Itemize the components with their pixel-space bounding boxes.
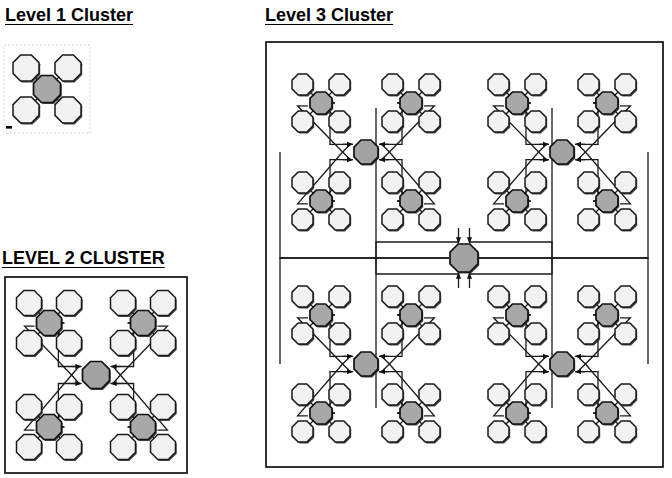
l3-tl-center-hub [354, 140, 378, 164]
l1-leaf-3 [13, 97, 39, 123]
l3-bl-bl-leaf-2 [329, 384, 350, 405]
l3-tl-br-leaf-1 [382, 172, 403, 193]
l3-br-bl-leaf-4 [525, 421, 546, 442]
l2-br-leaf-1 [111, 395, 136, 420]
l2-center-hub [83, 362, 110, 389]
l3-br-tr-leaf-2 [615, 286, 636, 307]
l3-bl-br-leaf-2 [419, 384, 440, 405]
l1-leaf-1 [13, 55, 39, 81]
l3-tr-bl-leaf-2 [525, 172, 546, 193]
l3-tr-tl-leaf-3 [488, 111, 509, 132]
l3-tl-tl-hub [310, 92, 332, 114]
l3-tl-bl-leaf-1 [292, 172, 313, 193]
l3-center-hub [450, 244, 478, 272]
l2-tl-hub [37, 311, 62, 336]
diagram-canvas: Level 1 Cluster LEVEL 2 CLUSTER Level 3 … [0, 0, 672, 478]
l2-tl-leaf-2 [57, 291, 82, 316]
l3-tr-br-leaf-4 [615, 209, 636, 230]
l3-tl-bl-leaf-4 [329, 209, 350, 230]
l3-bl-tr-leaf-2 [419, 286, 440, 307]
l3-br-tl-leaf-3 [488, 323, 509, 344]
l3-bl-tr-leaf-4 [419, 323, 440, 344]
l3-tr-br-leaf-3 [578, 209, 599, 230]
l2-bl-leaf-2 [57, 395, 82, 420]
level1-tick-mark [6, 126, 12, 129]
l3-bl-center-hub [354, 352, 378, 376]
l3-tl-tl-leaf-3 [292, 111, 313, 132]
l3-tr-br-leaf-1 [578, 172, 599, 193]
l2-bl-hub [37, 415, 62, 440]
l3-bl-bl-hub [310, 402, 332, 424]
level1-cluster-group [4, 45, 90, 133]
cluster-diagram [0, 0, 672, 478]
l2-tl-leaf-1 [17, 291, 42, 316]
l3-bl-tl-hub [310, 304, 332, 326]
l3-tl-tr-leaf-2 [419, 74, 440, 95]
l3-br-tl-leaf-2 [525, 286, 546, 307]
l3-tl-tr-hub [400, 92, 422, 114]
l3-tr-tl-leaf-4 [525, 111, 546, 132]
l2-bl-leaf-4 [57, 435, 82, 460]
l3-tr-tl-hub [506, 92, 528, 114]
l2-tl-leaf-4 [57, 331, 82, 356]
l2-br-hub [131, 415, 156, 440]
l2-tr-leaf-4 [151, 331, 176, 356]
l2-tr-leaf-3 [111, 331, 136, 356]
l3-tl-tr-leaf-4 [419, 111, 440, 132]
l2-tl-leaf-3 [17, 331, 42, 356]
l3-tr-br-leaf-2 [615, 172, 636, 193]
l3-tl-br-hub [400, 190, 422, 212]
l3-bl-bl-leaf-1 [292, 384, 313, 405]
l3-bl-tr-leaf-3 [382, 323, 403, 344]
l3-tr-tr-hub [596, 92, 618, 114]
l3-br-tr-leaf-3 [578, 323, 599, 344]
l3-tl-tl-leaf-4 [329, 111, 350, 132]
l3-tl-bl-hub [310, 190, 332, 212]
l3-bl-tl-leaf-4 [329, 323, 350, 344]
l1-hub [34, 76, 61, 103]
l3-tr-bl-hub [506, 190, 528, 212]
l3-bl-tr-leaf-1 [382, 286, 403, 307]
l3-tr-tr-leaf-2 [615, 74, 636, 95]
l3-br-br-leaf-2 [615, 384, 636, 405]
l3-tr-tr-leaf-1 [578, 74, 599, 95]
l3-br-bl-hub [506, 402, 528, 424]
l3-tl-br-leaf-3 [382, 209, 403, 230]
l3-tr-bl-leaf-4 [525, 209, 546, 230]
l3-tl-tr-leaf-1 [382, 74, 403, 95]
l3-br-br-leaf-3 [578, 421, 599, 442]
l2-br-leaf-3 [111, 435, 136, 460]
l3-tl-bl-leaf-2 [329, 172, 350, 193]
l3-tl-br-leaf-4 [419, 209, 440, 230]
level2-cluster-group [5, 277, 187, 473]
l3-br-tl-hub [506, 304, 528, 326]
l3-tr-tr-leaf-3 [578, 111, 599, 132]
l3-tr-tl-leaf-1 [488, 74, 509, 95]
l3-tl-br-leaf-2 [419, 172, 440, 193]
l3-bl-bl-leaf-3 [292, 421, 313, 442]
l3-tr-center-hub [550, 140, 574, 164]
l3-br-br-leaf-1 [578, 384, 599, 405]
l3-br-br-leaf-4 [615, 421, 636, 442]
l3-tr-tr-leaf-4 [615, 111, 636, 132]
l3-bl-tl-leaf-3 [292, 323, 313, 344]
l3-br-tr-hub [596, 304, 618, 326]
l2-tr-hub [131, 311, 156, 336]
l3-bl-bl-leaf-4 [329, 421, 350, 442]
l3-br-tr-leaf-1 [578, 286, 599, 307]
l3-br-center-hub [550, 352, 574, 376]
l3-tr-bl-leaf-3 [488, 209, 509, 230]
l1-leaf-2 [55, 55, 81, 81]
l3-tl-bl-leaf-3 [292, 209, 313, 230]
level3-cluster-group [266, 42, 663, 467]
l3-tl-tr-leaf-3 [382, 111, 403, 132]
l2-br-leaf-4 [151, 435, 176, 460]
l2-bl-leaf-1 [17, 395, 42, 420]
l3-tr-bl-leaf-1 [488, 172, 509, 193]
l3-bl-br-leaf-1 [382, 384, 403, 405]
l2-br-leaf-2 [151, 395, 176, 420]
l2-bl-leaf-3 [17, 435, 42, 460]
l3-bl-tl-leaf-2 [329, 286, 350, 307]
l3-br-bl-leaf-1 [488, 384, 509, 405]
l3-br-tl-leaf-4 [525, 323, 546, 344]
